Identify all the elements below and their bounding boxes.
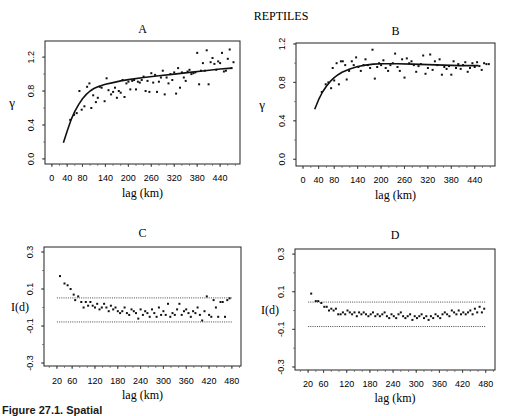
x-tick-label: 260 — [144, 173, 159, 183]
x-tick-label: 240 — [133, 376, 148, 386]
data-point — [101, 87, 103, 89]
panels: A04080140200260320380440lag (km)0.00.40.… — [8, 22, 495, 405]
y-tick-label: -0.1 — [25, 318, 35, 334]
data-point — [183, 310, 185, 312]
data-point — [478, 65, 480, 67]
x-axis-label: lag (km) — [122, 388, 163, 402]
data-point — [448, 65, 450, 67]
data-point — [472, 313, 474, 315]
data-point — [348, 70, 350, 72]
data-point — [462, 64, 464, 66]
data-point — [145, 90, 147, 92]
data-point — [372, 49, 374, 51]
data-point — [137, 318, 139, 320]
y-axis-label: γ — [258, 97, 265, 112]
data-point — [115, 307, 117, 309]
data-point — [190, 316, 192, 318]
data-point — [379, 315, 381, 317]
data-point — [164, 93, 166, 95]
data-point — [369, 67, 371, 69]
data-point — [165, 314, 167, 316]
data-point — [212, 57, 214, 59]
data-point — [168, 82, 170, 84]
data-point — [411, 60, 413, 62]
panel-d: D2060120180240300360420480lag (km)-0.3-0… — [261, 228, 495, 405]
data-point — [474, 66, 476, 68]
data-point — [340, 60, 342, 62]
data-point — [469, 67, 471, 69]
data-point — [471, 62, 473, 64]
data-point — [389, 64, 391, 66]
data-point — [425, 73, 427, 75]
data-point — [160, 314, 162, 316]
data-point — [441, 74, 443, 76]
data-point — [158, 81, 160, 83]
data-point — [86, 86, 88, 88]
data-point — [120, 92, 122, 94]
data-point — [465, 313, 467, 315]
panel-title: B — [391, 24, 399, 38]
y-tick-label: 0.0 — [277, 153, 287, 166]
data-point — [96, 303, 98, 305]
y-tick-label: -0.3 — [276, 359, 286, 375]
data-point — [112, 91, 114, 93]
data-point — [370, 313, 372, 315]
data-point — [374, 78, 376, 80]
data-point — [78, 90, 80, 92]
data-point — [439, 58, 441, 60]
data-point — [197, 307, 199, 309]
data-point — [378, 62, 380, 64]
data-point — [114, 87, 116, 89]
data-point — [139, 82, 141, 84]
data-point — [337, 313, 339, 315]
data-point — [156, 91, 158, 93]
data-point — [192, 72, 194, 74]
data-point — [175, 93, 177, 95]
data-point — [198, 83, 200, 85]
data-point — [226, 299, 228, 301]
data-point — [124, 307, 126, 309]
data-point — [95, 101, 97, 103]
data-point — [213, 299, 215, 301]
data-point — [219, 62, 221, 64]
data-point — [137, 81, 139, 83]
data-point — [446, 68, 448, 70]
x-tick-label: 440 — [213, 173, 228, 183]
data-point — [448, 315, 450, 317]
data-point — [460, 68, 462, 70]
y-axis-label: I(d) — [261, 303, 279, 317]
data-point — [162, 70, 164, 72]
data-point — [376, 66, 378, 68]
data-point — [88, 82, 90, 84]
data-point — [129, 88, 131, 90]
data-point — [323, 306, 325, 308]
x-tick-label: 240 — [386, 379, 401, 389]
data-point — [144, 310, 146, 312]
data-point — [97, 97, 99, 99]
panel-b: B04080140200260320380440lag (km)0.00.40.… — [258, 24, 495, 202]
data-point — [384, 311, 386, 313]
data-point — [229, 297, 231, 299]
panel-c: C2060120180240300360420480lag (km)-0.3-0… — [11, 226, 241, 402]
data-point — [367, 315, 369, 317]
data-point — [374, 315, 376, 317]
data-point — [474, 308, 476, 310]
data-point — [427, 67, 429, 69]
data-point — [380, 64, 382, 66]
data-point — [108, 89, 110, 91]
data-point — [143, 76, 145, 78]
data-point — [70, 288, 72, 290]
data-point — [385, 67, 387, 69]
data-point — [435, 313, 437, 315]
data-point — [154, 74, 156, 76]
x-tick-label: 440 — [467, 175, 482, 185]
data-point — [190, 73, 192, 75]
plot-frame — [295, 249, 495, 370]
data-point — [421, 313, 423, 315]
x-tick-label: 40 — [314, 175, 324, 185]
data-point — [153, 312, 155, 314]
data-point — [483, 308, 485, 310]
data-point — [192, 310, 194, 312]
data-point — [158, 307, 160, 309]
data-point — [64, 283, 66, 285]
